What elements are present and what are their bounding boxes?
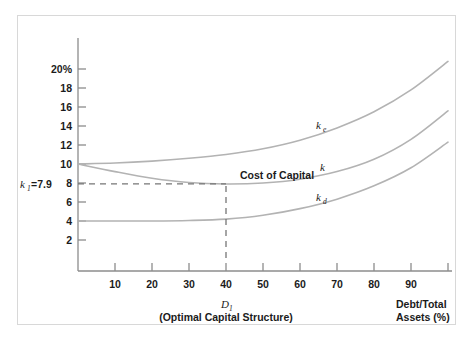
k1-annotation-group: k 1 =7.9 (20, 178, 52, 193)
y-tick-label-18: 18 (60, 82, 72, 94)
x-tick-label-20: 20 (146, 278, 158, 290)
x-axis-ticks (115, 263, 448, 271)
y-tick-label-2: 2 (66, 234, 72, 246)
chart-figure-frame: 20% 18 16 14 12 10 8 6 4 2 10 20 30 40 5… (17, 15, 456, 325)
optimal-structure-label-group: D 1 (Optimal Capital Structure) (159, 298, 293, 323)
x-tick-label-90: 90 (405, 278, 417, 290)
curve-label-kd: k (316, 191, 322, 203)
cost-of-capital-annotation: Cost of Capital (240, 169, 314, 181)
x-tick-label-10: 10 (109, 278, 121, 290)
curve-label-kd-subscript: d (323, 197, 327, 206)
y-tick-label-20: 20% (51, 63, 73, 75)
curve-label-k-group: k (320, 161, 326, 173)
x-tick-label-40: 40 (220, 278, 232, 290)
y-tick-label-4: 4 (66, 215, 72, 227)
y-tick-label-16: 16 (60, 101, 72, 113)
x-tick-label-30: 30 (183, 278, 195, 290)
x-axis-title-line1: Debt/Total (396, 298, 447, 310)
y-tick-label-8: 8 (66, 177, 72, 189)
curve-label-ke-group: k e (316, 119, 327, 134)
y-tick-label-12: 12 (60, 139, 72, 151)
curve-label-k: k (320, 161, 326, 173)
y-tick-label-10: 10 (60, 158, 72, 170)
y-axis-ticks (78, 69, 86, 240)
cost-of-capital-chart: 20% 18 16 14 12 10 8 6 4 2 10 20 30 40 5… (18, 16, 455, 324)
x-tick-label-80: 80 (368, 278, 380, 290)
y-tick-label-6: 6 (66, 196, 72, 208)
curve-ke (78, 61, 448, 164)
optimal-structure-caption: (Optimal Capital Structure) (159, 311, 293, 323)
y-tick-label-14: 14 (60, 120, 72, 132)
curve-label-ke: k (316, 119, 322, 131)
optimal-structure-symbol: D (220, 298, 229, 310)
k1-annotation-value: =7.9 (31, 178, 52, 190)
curve-kd (78, 142, 448, 221)
k1-annotation-symbol: k (20, 178, 26, 190)
x-axis-title-group: Debt/Total Assets (%) (396, 298, 450, 323)
x-tick-label-60: 60 (294, 278, 306, 290)
x-tick-label-50: 50 (257, 278, 269, 290)
x-axis-title-line2: Assets (%) (396, 311, 450, 323)
x-tick-label-70: 70 (331, 278, 343, 290)
